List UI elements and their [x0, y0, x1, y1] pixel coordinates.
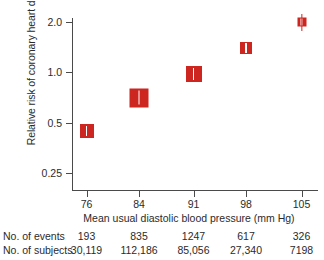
error-bar-inner-98 — [245, 43, 247, 52]
y-tick-0.25 — [66, 173, 73, 174]
data-point-98 — [240, 42, 252, 54]
stats-cell: 835 — [111, 230, 167, 242]
stats-cell: 30,119 — [59, 244, 115, 256]
y-tick-0.5 — [66, 123, 73, 124]
stats-row: No. of events1938351247617326 — [0, 230, 324, 244]
stats-cell: 85,056 — [166, 244, 222, 256]
data-point-84 — [130, 88, 149, 107]
data-point-91 — [186, 66, 202, 82]
x-tick-91 — [194, 191, 195, 197]
x-tick-label-76: 76 — [67, 198, 107, 210]
y-axis-line — [72, 18, 73, 191]
error-bar-inner-76 — [86, 126, 88, 137]
x-axis-title: Mean usual diastolic blood pressure (mm … — [60, 212, 318, 224]
stats-cell: 7198 — [274, 244, 324, 256]
y-tick-label-0.5: 0.5 — [20, 117, 62, 129]
error-bar-inner-91 — [193, 68, 195, 80]
stats-cell: 112,186 — [111, 244, 167, 256]
x-tick-label-105: 105 — [282, 198, 322, 210]
chart-figure: Relative risk of coronary heart disease … — [0, 0, 324, 260]
x-tick-label-91: 91 — [174, 198, 214, 210]
y-tick-1.0 — [66, 72, 73, 73]
x-axis-line — [72, 190, 318, 191]
x-tick-84 — [139, 191, 140, 197]
x-tick-76 — [87, 191, 88, 197]
x-tick-label-98: 98 — [226, 198, 266, 210]
x-tick-105 — [302, 191, 303, 197]
y-tick-label-1.0: 1.0 — [20, 66, 62, 78]
stats-cell: 326 — [274, 230, 324, 242]
stats-cell: 617 — [218, 230, 274, 242]
stats-cell: 27,340 — [218, 244, 274, 256]
stats-table: No. of events1938351247617326No. of subj… — [0, 230, 324, 258]
error-bar-whisker-105 — [301, 14, 302, 31]
y-tick-label-2.0: 2.0 — [20, 16, 62, 28]
x-tick-label-84: 84 — [119, 198, 159, 210]
y-tick-label-0.25: 0.25 — [20, 167, 62, 179]
stats-row: No. of subjects30,119112,18685,05627,340… — [0, 244, 324, 258]
data-point-76 — [80, 124, 94, 138]
stats-row-label: No. of events — [3, 230, 65, 242]
stats-cell: 1247 — [166, 230, 222, 242]
y-tick-2.0 — [66, 22, 73, 23]
stats-cell: 193 — [59, 230, 115, 242]
x-tick-98 — [246, 191, 247, 197]
error-bar-inner-84 — [138, 90, 140, 104]
